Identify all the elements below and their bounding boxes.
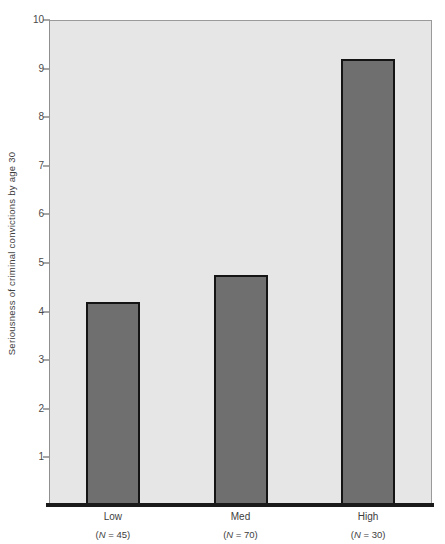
y-axis-tick-label: 4 [22, 307, 44, 317]
x-axis-category-group: Med(N = 70) [177, 510, 305, 541]
bar [341, 59, 395, 506]
x-axis-group-size-label: (N = 70) [177, 528, 305, 542]
y-axis-tick-label: 1 [22, 452, 44, 462]
y-axis-tick-label: 10 [22, 15, 44, 25]
bar [86, 302, 140, 506]
x-axis-category-group: High(N = 30) [304, 510, 432, 541]
y-axis-tick-label: 2 [22, 404, 44, 414]
x-axis-category-label: Low [49, 510, 177, 525]
y-axis-tick-label: 3 [22, 355, 44, 365]
plot-area [49, 20, 432, 506]
y-axis-tick-label: 8 [22, 112, 44, 122]
x-axis-category-group: Low(N = 45) [49, 510, 177, 541]
x-axis-line [46, 503, 434, 507]
x-axis-group-size-label: (N = 30) [304, 528, 432, 542]
y-axis-tick-label: 7 [22, 161, 44, 171]
bar-chart-figure: Seriousness of criminal convictions by a… [0, 0, 445, 544]
x-axis-category-label: High [304, 510, 432, 525]
x-axis-category-label: Med [177, 510, 305, 525]
x-axis-group-size-label: (N = 45) [49, 528, 177, 542]
y-axis-tick-label: 6 [22, 209, 44, 219]
y-axis-tick-label: 5 [22, 258, 44, 268]
bar [214, 275, 268, 506]
bars-container [49, 21, 431, 506]
y-axis-title: Seriousness of criminal convictions by a… [7, 151, 18, 354]
y-axis-line [49, 20, 50, 506]
y-axis-tick-labels: 12345678910 [20, 0, 44, 544]
y-axis-tick-label: 9 [22, 64, 44, 74]
